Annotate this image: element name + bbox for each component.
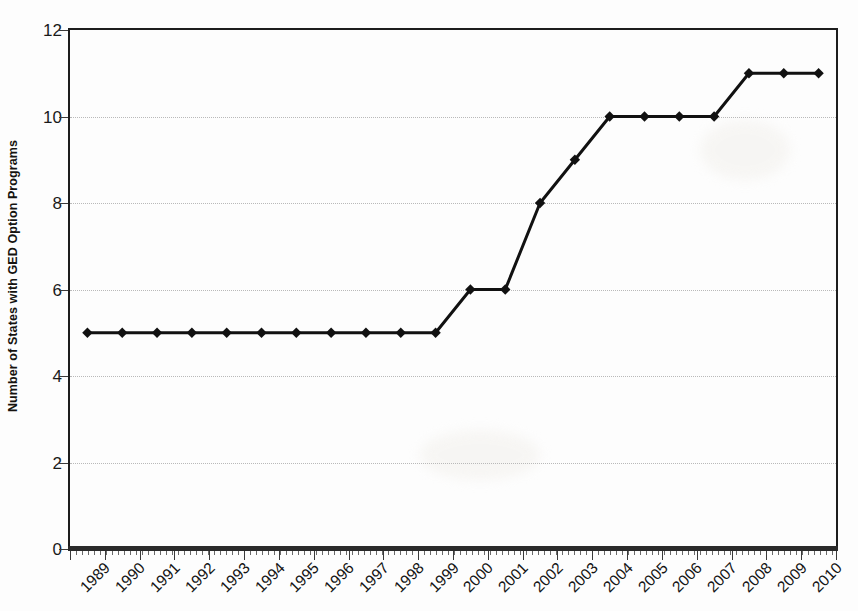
x-tick-label-1993: 1993 <box>216 559 253 596</box>
plot-area <box>68 28 838 551</box>
x-tick-label-1994: 1994 <box>251 559 288 596</box>
y-axis-tick-6 <box>59 290 68 291</box>
x-tick-label-1997: 1997 <box>356 559 393 596</box>
x-tick-label-text: 1993 <box>216 559 253 596</box>
gridline-y-6 <box>70 290 836 291</box>
x-tick-label-text: 2007 <box>704 559 741 596</box>
x-tick-label-1990: 1990 <box>112 559 149 596</box>
x-tick-label-text: 2005 <box>634 559 671 596</box>
x-tick-label-text: 1998 <box>390 559 427 596</box>
x-tick-label-1991: 1991 <box>147 559 184 596</box>
x-tick-label-2001: 2001 <box>495 559 532 596</box>
x-tick-label-text: 2010 <box>808 559 845 596</box>
x-tick-label-text: 2003 <box>564 559 601 596</box>
x-tick-label-text: 2006 <box>669 559 706 596</box>
x-tick-label-1989: 1989 <box>77 559 114 596</box>
gridline-y-10 <box>70 117 836 118</box>
gridline-y-2 <box>70 463 836 464</box>
y-axis-tick-0 <box>59 549 68 550</box>
x-tick-label-2008: 2008 <box>739 559 776 596</box>
x-tick-label-text: 1991 <box>147 559 184 596</box>
chart-page: Number of States with GED Option Program… <box>0 0 858 611</box>
x-tick-label-2004: 2004 <box>599 559 636 596</box>
x-tick-label-text: 1989 <box>77 559 114 596</box>
x-tick-label-1992: 1992 <box>181 559 218 596</box>
x-tick-label-2006: 2006 <box>669 559 706 596</box>
x-tick-label-text: 1994 <box>251 559 288 596</box>
x-tick-label-2000: 2000 <box>460 559 497 596</box>
x-tick-label-2007: 2007 <box>704 559 741 596</box>
x-tick-label-2005: 2005 <box>634 559 671 596</box>
y-axis-tick-labels: 024681012 <box>14 0 62 611</box>
y-tick-label-4: 4 <box>16 368 62 385</box>
y-axis-tick-2 <box>59 463 68 464</box>
x-tick-label-1999: 1999 <box>425 559 462 596</box>
plot-inner <box>70 30 836 549</box>
x-axis-tick-labels: 1989199019911992199319941995199619971998… <box>68 551 838 611</box>
y-tick-label-0: 0 <box>16 541 62 558</box>
y-tick-label-10: 10 <box>16 108 62 125</box>
x-tick-label-text: 2004 <box>599 559 636 596</box>
x-tick-label-1996: 1996 <box>321 559 358 596</box>
y-axis-tick-8 <box>59 203 68 204</box>
gridline-y-8 <box>70 203 836 204</box>
x-tick-label-text: 1999 <box>425 559 462 596</box>
x-tick-label-1995: 1995 <box>286 559 323 596</box>
x-tick-label-2010: 2010 <box>808 559 845 596</box>
x-tick-label-text: 2008 <box>739 559 776 596</box>
x-tick-label-2003: 2003 <box>564 559 601 596</box>
x-tick-label-text: 1995 <box>286 559 323 596</box>
x-tick-label-text: 1992 <box>181 559 218 596</box>
gridline-y-4 <box>70 376 836 377</box>
x-tick-label-text: 1990 <box>112 559 149 596</box>
y-axis-tick-10 <box>59 117 68 118</box>
x-tick-label-2002: 2002 <box>530 559 567 596</box>
x-tick-label-text: 2009 <box>773 559 810 596</box>
x-tick-label-text: 2001 <box>495 559 532 596</box>
y-tick-label-6: 6 <box>16 281 62 298</box>
y-axis-tick-4 <box>59 376 68 377</box>
x-tick-label-text: 1996 <box>321 559 358 596</box>
y-tick-label-12: 12 <box>16 22 62 39</box>
x-tick-label-text: 2002 <box>530 559 567 596</box>
y-tick-label-8: 8 <box>16 195 62 212</box>
x-tick-label-text: 2000 <box>460 559 497 596</box>
x-tick-label-2009: 2009 <box>773 559 810 596</box>
x-tick-label-text: 1997 <box>356 559 393 596</box>
y-tick-label-2: 2 <box>16 454 62 471</box>
x-tick-label-1998: 1998 <box>390 559 427 596</box>
y-axis-tick-12 <box>59 30 68 31</box>
